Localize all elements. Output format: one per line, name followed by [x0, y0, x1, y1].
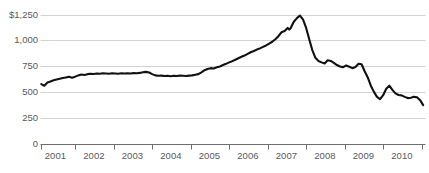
x-axis-label: 2006: [228, 150, 268, 162]
x-axis-label: 2005: [189, 150, 229, 162]
x-axis-label: 2010: [382, 150, 422, 162]
x-axis-label: 2001: [35, 150, 75, 162]
x-axis-label: 2009: [343, 150, 383, 162]
x-axis-label: 2004: [151, 150, 191, 162]
data-series-line: [41, 16, 423, 106]
chart-container: $1,2501,0007505002500 200120022003200420…: [0, 0, 429, 173]
x-axis-label: 2003: [112, 150, 152, 162]
x-axis-ticks: [42, 145, 423, 150]
x-axis-label: 2007: [266, 150, 306, 162]
x-axis-labels: 2001200220032004200520062007200820092010: [40, 150, 425, 166]
x-axis-label: 2008: [305, 150, 345, 162]
chart-plot-area: [0, 0, 429, 173]
x-axis-label: 2002: [74, 150, 114, 162]
